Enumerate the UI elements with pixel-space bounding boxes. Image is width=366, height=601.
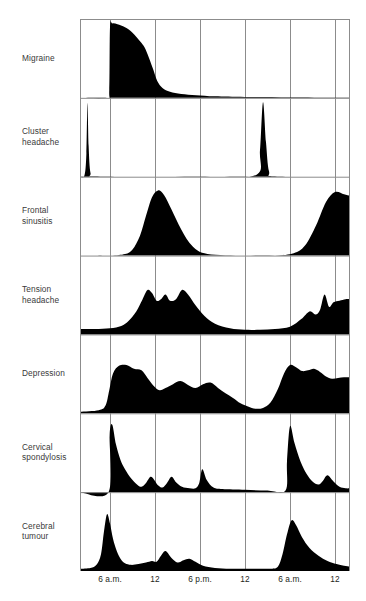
- row-label-cluster-headache: Clusterheadache: [22, 126, 80, 147]
- x-tick-label-3: 12: [240, 574, 249, 585]
- row-label-depression: Depression: [22, 368, 80, 379]
- series-row-migraine: [80, 21, 350, 98]
- row-label-frontal-sinusitis: Frontalsinusitis: [22, 205, 80, 226]
- area-cluster-headache: [80, 102, 350, 177]
- area-tension-headache: [80, 290, 350, 335]
- row-label-migraine: Migraine: [22, 53, 80, 64]
- series-row-frontal-sinusitis: [80, 190, 350, 255]
- row-label-line1: Frontal: [22, 205, 80, 216]
- row-label-line1: Cerebral: [22, 521, 80, 532]
- area-frontal-sinusitis: [80, 190, 350, 255]
- row-label-line2: sinusitis: [22, 216, 80, 227]
- area-depression: [80, 365, 350, 414]
- series-row-tension-headache: [80, 290, 350, 335]
- series-row-depression: [80, 365, 350, 414]
- row-label-line1: Depression: [22, 368, 80, 379]
- row-label-line2: headache: [22, 137, 80, 148]
- x-tick-label-5: 12: [330, 574, 339, 585]
- chart-svg: [80, 19, 350, 571]
- row-label-column: MigraineClusterheadacheFrontalsinusitisT…: [0, 19, 80, 571]
- row-label-cervical-spondylosis: Cervicalspondylosis: [22, 442, 80, 463]
- area-cerebral-tumour: [80, 514, 350, 571]
- headache-diurnal-pattern-figure: MigraineClusterheadacheFrontalsinusitisT…: [0, 0, 366, 601]
- row-label-tension-headache: Tensionheadache: [22, 284, 80, 305]
- x-tick-label-2: 6 p.m.: [188, 574, 212, 585]
- row-label-line2: spondylosis: [22, 452, 80, 463]
- x-tick-label-4: 6 a.m.: [278, 574, 302, 585]
- row-label-line1: Tension: [22, 284, 80, 295]
- row-label-line1: Cluster: [22, 126, 80, 137]
- row-label-line1: Cervical: [22, 442, 80, 453]
- x-axis-tick-labels: 6 a.m.126 p.m.126 a.m.12: [80, 574, 350, 590]
- row-label-line2: tumour: [22, 531, 80, 542]
- area-migraine: [80, 21, 350, 98]
- row-label-cerebral-tumour: Cerebraltumour: [22, 521, 80, 542]
- series-row-cervical-spondylosis: [80, 424, 350, 496]
- chart-plot-area: [80, 19, 350, 571]
- row-label-line2: headache: [22, 295, 80, 306]
- area-cervical-spondylosis: [80, 424, 350, 496]
- x-tick-label-1: 12: [150, 574, 159, 585]
- x-tick-label-0: 6 a.m.: [98, 574, 122, 585]
- series-row-cerebral-tumour: [80, 514, 350, 571]
- series-row-cluster-headache: [80, 102, 350, 177]
- row-label-line1: Migraine: [22, 53, 80, 64]
